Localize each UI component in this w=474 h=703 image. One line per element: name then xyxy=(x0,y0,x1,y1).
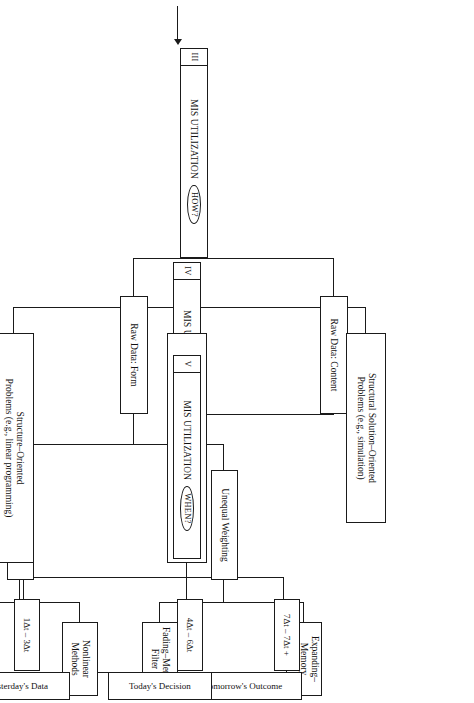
connector-to-time-3 xyxy=(283,577,284,599)
node-structure-oriented-line1: Structure–Oriented xyxy=(14,412,25,485)
node-time-window-3[interactable]: 7Δt – 7Δt + xyxy=(274,599,300,671)
connector-to-time-2 xyxy=(186,577,187,599)
level-iii-title-group: MIS UTILIZATION HOW? xyxy=(187,66,200,257)
node-unequal-weighting[interactable]: Unequal Weighting xyxy=(211,470,238,580)
node-raw-data-content[interactable]: Raw Data: Content xyxy=(320,296,348,414)
connector-iii-spine xyxy=(134,258,334,259)
level-iii-title: MIS UTILIZATION xyxy=(189,99,199,179)
level-iii-question: HOW? xyxy=(187,185,200,224)
diagram-stage: III MIS UTILIZATION HOW? Raw Data: Conte… xyxy=(0,0,474,703)
input-arrow xyxy=(173,6,182,46)
node-horizon-yesterday-label: Yesterday's Data xyxy=(0,681,48,691)
connector-iv-to-structural xyxy=(365,307,366,333)
node-structural-solution-oriented-line2: Problems (e.g., simulation) xyxy=(355,376,366,479)
node-time-window-2[interactable]: 4Δt – 6Δt xyxy=(177,599,203,671)
node-raw-data-content-label: Raw Data: Content xyxy=(329,319,340,392)
node-nonlinear-methods-line2: Methods xyxy=(69,642,80,675)
level-v-question: WHEN? xyxy=(180,486,193,530)
connector-iv-spine-lower xyxy=(14,307,187,308)
node-raw-data-form-label: Raw Data: Form xyxy=(129,323,140,386)
level-v-mis-utilization[interactable]: V MIS UTILIZATION WHEN? xyxy=(173,355,201,559)
node-horizon-yesterday[interactable]: Yesterday's Data xyxy=(0,672,70,700)
node-structural-solution-oriented-line1: Structural Solution–Oriented xyxy=(366,373,377,483)
node-structure-oriented-line2: Problems (e.g., linear programming) xyxy=(3,379,14,518)
node-raw-data-form[interactable]: Raw Data: Form xyxy=(120,296,148,414)
node-time-window-3-label: 7Δt – 7Δt + xyxy=(282,614,292,656)
connector-iii-to-form xyxy=(133,258,134,296)
node-fading-memory-filter-line2: Filter xyxy=(149,649,160,670)
node-horizon-today-label: Today's Decision xyxy=(129,681,191,691)
node-structure-oriented[interactable]: Structure–Oriented Problems (e.g., linea… xyxy=(0,333,34,563)
level-v-title: MIS UTILIZATION xyxy=(182,400,192,480)
node-time-window-2-label: 4Δt – 6Δt xyxy=(185,618,195,653)
node-time-window-1-label: 1Δt – 3Δt xyxy=(22,618,32,653)
connector-to-fading xyxy=(159,602,160,622)
node-nonlinear-methods-line1: Nonlinear xyxy=(80,640,91,678)
node-structural-solution-oriented[interactable]: Structural Solution–Oriented Problems (e… xyxy=(346,333,386,523)
connector-time-bus xyxy=(24,577,284,578)
level-v-title-group: MIS UTILIZATION WHEN? xyxy=(180,373,193,558)
node-unequal-weighting-label: Unequal Weighting xyxy=(219,488,230,562)
connector-methods-bus xyxy=(0,602,80,603)
diagram-canvas: III MIS UTILIZATION HOW? Raw Data: Conte… xyxy=(0,0,474,703)
connector-iii-to-content xyxy=(333,258,334,296)
node-horizon-today[interactable]: Today's Decision xyxy=(108,672,212,700)
connector-unequal-out xyxy=(223,580,224,602)
connector-to-nonlinear xyxy=(79,602,80,622)
node-horizon-tomorrow-label: Tomorrow's Outcome xyxy=(204,681,282,691)
level-iii-mis-utilization[interactable]: III MIS UTILIZATION HOW? xyxy=(180,48,208,258)
connector-to-unequal xyxy=(223,444,224,470)
level-iv-numeral: IV xyxy=(174,263,200,280)
connector-to-time-1 xyxy=(23,577,24,599)
connector-to-expanding xyxy=(303,602,304,622)
level-iii-numeral: III xyxy=(181,49,207,66)
node-time-window-1[interactable]: 1Δt – 3Δt xyxy=(14,599,40,671)
connector-form-out xyxy=(133,414,134,444)
level-v-numeral: V xyxy=(174,356,200,373)
connector-content-down xyxy=(187,414,334,415)
connector-iv-to-structure xyxy=(13,307,14,333)
